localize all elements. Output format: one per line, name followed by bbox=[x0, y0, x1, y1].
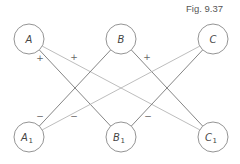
node-subscript: 1 bbox=[120, 137, 124, 145]
node-b: B bbox=[106, 24, 136, 54]
plus-sign-label: + bbox=[70, 52, 78, 62]
node-subscript: 1 bbox=[28, 137, 32, 145]
node-subscript: 1 bbox=[213, 137, 217, 145]
minus-sign-label: − bbox=[70, 111, 78, 121]
node-c: C bbox=[198, 24, 228, 54]
node-label: B bbox=[118, 34, 125, 45]
node-a: A bbox=[14, 24, 44, 54]
plus-sign-label: + bbox=[36, 53, 44, 63]
minus-sign-label: − bbox=[144, 111, 152, 121]
plus-sign-label: + bbox=[143, 52, 151, 62]
node-c1: C1 bbox=[198, 122, 228, 152]
node-label: C bbox=[210, 34, 217, 45]
node-label: A bbox=[25, 34, 33, 45]
minus-sign-label: − bbox=[36, 111, 44, 121]
node-b1: B1 bbox=[106, 122, 136, 152]
bipartite-diagram: ABCA1B1C1 +++−−− bbox=[0, 0, 240, 164]
edges-group bbox=[39, 46, 202, 130]
node-a1: A1 bbox=[14, 122, 44, 152]
